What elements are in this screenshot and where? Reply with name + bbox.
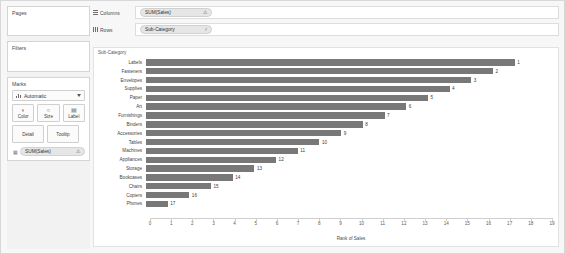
size-button[interactable]: ○ Size — [37, 104, 59, 122]
bar-track: 8 — [146, 120, 558, 129]
bar-track: 13 — [146, 164, 558, 173]
bar[interactable] — [146, 130, 341, 136]
tableau-worksheet: Pages Filters Marks Automatic ◐ Color ○ … — [0, 0, 565, 254]
chart-row: Binders8 — [94, 120, 558, 129]
sort-icon: ⫽ — [205, 27, 207, 32]
label-button-label: Label — [68, 114, 79, 119]
label-text-icon: ▦ — [12, 149, 18, 155]
marks-type-label: Automatic — [24, 93, 77, 99]
chart-row: Paper5 — [94, 93, 558, 102]
columns-pill-sum-sales[interactable]: SUM(Sales) ⚠ — [140, 8, 212, 17]
chart-row: Storage13 — [94, 164, 558, 173]
category-label: Paper — [94, 95, 146, 100]
bar[interactable] — [146, 157, 276, 163]
bar[interactable] — [146, 121, 363, 127]
bar[interactable] — [146, 165, 254, 171]
tooltip-button[interactable]: Tooltip — [47, 125, 79, 143]
bar[interactable] — [146, 77, 471, 83]
rows-pill-label: Sub-Category — [145, 27, 175, 32]
bar-value-label: 12 — [279, 157, 284, 162]
marks-side-panel: Pages Filters Marks Automatic ◐ Color ○ … — [7, 6, 90, 249]
axis-tick-label: 9 — [339, 221, 342, 226]
rows-shelf-label-group: Rows — [93, 27, 135, 33]
marks-button-row-1: ◐ Color ○ Size ▤ Label — [12, 104, 85, 122]
bar[interactable] — [146, 148, 298, 154]
rows-pill-sub-category[interactable]: Sub-Category ⫽ — [140, 25, 212, 34]
category-label: Fasteners — [94, 69, 146, 74]
bar[interactable] — [146, 112, 385, 118]
category-label: Chairs — [94, 184, 146, 189]
axis-tick-label: 16 — [486, 221, 491, 226]
category-label: Envelopes — [94, 78, 146, 83]
category-label: Art — [94, 104, 146, 109]
rows-shelf-label: Rows — [100, 27, 113, 33]
axis-tick-label: 2 — [191, 221, 194, 226]
category-label: Tables — [94, 140, 146, 145]
axis-tick-label: 15 — [465, 221, 470, 226]
bar-track: 12 — [146, 155, 558, 164]
detail-button[interactable]: Detail — [12, 125, 44, 143]
chevron-down-icon[interactable] — [77, 94, 81, 97]
bar[interactable] — [146, 201, 168, 207]
bar[interactable] — [146, 174, 233, 180]
bar[interactable] — [146, 103, 406, 109]
label-icon: ▤ — [71, 107, 77, 113]
marks-sum-sales-pill[interactable]: SUM(Sales) ⚠ — [20, 147, 85, 156]
chart-row: Appliances12 — [94, 155, 558, 164]
bar-track: 5 — [146, 93, 558, 102]
rows-shelf-track[interactable]: Sub-Category ⫽ — [135, 23, 559, 36]
chart-row: Chairs15 — [94, 182, 558, 191]
bar-track: 2 — [146, 67, 558, 76]
axis-tick-label: 12 — [401, 221, 406, 226]
bar-value-label: 10 — [322, 140, 327, 145]
marks-type-dropdown[interactable]: Automatic — [12, 90, 85, 101]
columns-shelf[interactable]: Columns SUM(Sales) ⚠ — [93, 6, 559, 19]
category-label: Bookcases — [94, 175, 146, 180]
bar[interactable] — [146, 95, 428, 101]
chart-row: Art6 — [94, 102, 558, 111]
marks-card-title: Marks — [8, 78, 89, 89]
bar[interactable] — [146, 192, 189, 198]
columns-shelf-track[interactable]: SUM(Sales) ⚠ — [135, 6, 559, 19]
bar-chart-icon — [16, 93, 21, 98]
filters-card[interactable]: Filters — [7, 41, 90, 72]
axis-tick-label: 4 — [233, 221, 236, 226]
rows-shelf[interactable]: Rows Sub-Category ⫽ — [93, 23, 559, 36]
category-label: Supplies — [94, 86, 146, 91]
chart-row: Fasteners2 — [94, 67, 558, 76]
bar-value-label: 4 — [452, 86, 455, 91]
bar-value-label: 1 — [517, 60, 520, 65]
bar[interactable] — [146, 59, 515, 65]
visualization-pane[interactable]: Sub-Category Labels1Fasteners2Envelopes3… — [93, 47, 559, 247]
pages-card[interactable]: Pages — [7, 6, 90, 36]
rows-grid-icon — [93, 27, 98, 32]
bar-track: 4 — [146, 85, 558, 94]
bar-value-label: 16 — [192, 193, 197, 198]
category-label: Machines — [94, 148, 146, 153]
axis-tick-label: 10 — [359, 221, 364, 226]
category-label: Phones — [94, 201, 146, 206]
chart-row: Supplies4 — [94, 85, 558, 94]
bar[interactable] — [146, 139, 319, 145]
marks-button-row-2: Detail Tooltip — [12, 125, 85, 143]
chart-row: Accessories9 — [94, 129, 558, 138]
category-label: Storage — [94, 166, 146, 171]
axis-tick-label: 1 — [170, 221, 173, 226]
bar-value-label: 14 — [235, 175, 240, 180]
bar-track: 3 — [146, 76, 558, 85]
chart-row: Bookcases14 — [94, 173, 558, 182]
color-palette-icon: ◐ — [22, 107, 25, 113]
marks-card: Marks Automatic ◐ Color ○ Size ▤ Label — [7, 77, 90, 161]
label-button[interactable]: ▤ Label — [63, 104, 85, 122]
bar[interactable] — [146, 86, 450, 92]
bar-value-label: 9 — [344, 131, 347, 136]
bar-track: 10 — [146, 138, 558, 147]
bar-value-label: 3 — [474, 78, 477, 83]
bar[interactable] — [146, 68, 493, 74]
category-label: Accessories — [94, 131, 146, 136]
axis-tick-label: 13 — [422, 221, 427, 226]
color-button[interactable]: ◐ Color — [12, 104, 34, 122]
size-icon: ○ — [47, 107, 50, 113]
bar-track: 1 — [146, 58, 558, 67]
bar[interactable] — [146, 183, 211, 189]
